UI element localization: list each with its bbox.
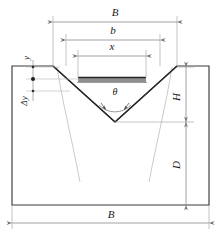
diagram-root: θ B b x H	[0, 0, 223, 244]
tick-dot-y-bottom	[32, 90, 35, 93]
workpiece-body	[12, 66, 209, 205]
dim-label-B-bottom: B	[108, 208, 115, 220]
dim-label-B-top: B	[112, 6, 119, 18]
v-groove-cross-section-diagram: θ B b x H	[0, 0, 223, 244]
dimension-top-B: B	[53, 6, 177, 66]
tick-dot-y-top	[32, 66, 35, 69]
dimension-bottom-B: B	[12, 205, 209, 229]
dim-label-H: H	[170, 92, 182, 102]
angle-theta-group: θ	[99, 86, 131, 112]
tick-dot-y-mid	[31, 77, 35, 81]
dim-label-x: x	[109, 40, 115, 52]
dim-label-y: y	[21, 56, 31, 61]
angle-arc	[99, 105, 131, 112]
weld-layer-bar	[77, 78, 147, 83]
dim-label-b: b	[110, 24, 116, 36]
body-outline	[12, 66, 209, 205]
dim-label-D: D	[170, 161, 182, 170]
dim-label-delta-y: Δy	[19, 96, 29, 106]
dimension-top-x: x	[78, 40, 146, 78]
angle-label-theta: θ	[113, 86, 118, 97]
